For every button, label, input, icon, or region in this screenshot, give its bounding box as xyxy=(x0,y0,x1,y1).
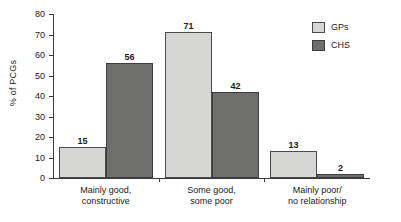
y-tick-label: 0 xyxy=(23,174,45,183)
y-tick-label: 80 xyxy=(23,10,45,19)
bar-chart: % of PCGs 01020304050607080 15711356422 … xyxy=(0,0,401,222)
bar-chs-0[interactable]: 56 xyxy=(106,63,153,178)
bar-gps-2[interactable]: 13 xyxy=(270,151,317,178)
legend-label-gps: GPs xyxy=(331,23,349,32)
legend-label-chs: CHS xyxy=(331,41,350,50)
y-tick xyxy=(49,96,53,97)
y-tick xyxy=(49,76,53,77)
x-axis-label-1: Some good,some poor xyxy=(152,185,272,207)
y-tick xyxy=(49,55,53,56)
y-axis-line xyxy=(53,14,54,178)
x-axis-label-line: Some good, xyxy=(152,185,272,196)
bar-gps-0[interactable]: 15 xyxy=(59,147,106,178)
y-tick-label: 70 xyxy=(23,31,45,40)
legend-item-chs[interactable]: CHS xyxy=(312,40,350,51)
x-axis-label-line: constructive xyxy=(46,196,166,207)
bar-chs-1[interactable]: 42 xyxy=(212,92,259,178)
bar-value-label: 42 xyxy=(230,82,240,91)
y-tick-label: 50 xyxy=(23,72,45,81)
legend-swatch-chs xyxy=(312,40,325,51)
y-tick-label: 40 xyxy=(23,92,45,101)
y-tick-label: 30 xyxy=(23,113,45,122)
y-tick xyxy=(49,137,53,138)
bar-value-label: 56 xyxy=(124,53,134,62)
x-tick xyxy=(159,178,160,182)
bar-gps-1[interactable]: 71 xyxy=(165,32,212,178)
x-tick xyxy=(264,178,265,182)
bar-value-label: 2 xyxy=(338,164,343,173)
x-axis-label-line: no relationship xyxy=(257,196,377,207)
legend: GPs CHS xyxy=(312,22,350,58)
x-axis-label-line: Mainly good, xyxy=(46,185,166,196)
y-tick xyxy=(49,117,53,118)
bar-value-label: 71 xyxy=(183,22,193,31)
legend-item-gps[interactable]: GPs xyxy=(312,22,350,33)
bar-value-label: 13 xyxy=(288,141,298,150)
x-axis-line xyxy=(53,178,370,179)
y-tick-label: 60 xyxy=(23,51,45,60)
legend-swatch-gps xyxy=(312,22,325,33)
y-tick xyxy=(49,35,53,36)
bar-value-label: 15 xyxy=(77,137,87,146)
bar-chs-2[interactable]: 2 xyxy=(317,174,364,178)
y-tick-label: 20 xyxy=(23,133,45,142)
y-tick xyxy=(49,14,53,15)
y-tick xyxy=(49,158,53,159)
x-axis-label-line: Mainly poor/ xyxy=(257,185,377,196)
y-axis-title: % of PCGs xyxy=(8,48,18,118)
x-axis-label-line: some poor xyxy=(152,196,272,207)
y-tick-label: 10 xyxy=(23,154,45,163)
x-axis-label-0: Mainly good,constructive xyxy=(46,185,166,207)
x-axis-label-2: Mainly poor/no relationship xyxy=(257,185,377,207)
y-tick xyxy=(49,178,53,179)
